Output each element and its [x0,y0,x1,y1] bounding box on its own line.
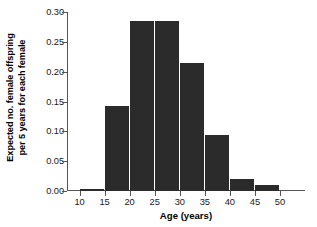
y-axis-tick-label: 0.00 [28,186,64,196]
y-axis-tick-label: 0.05 [28,156,64,166]
bar [105,106,129,191]
x-axis-tick-mark [105,191,106,196]
y-axis-tick-mark [62,191,67,192]
x-axis-tick-mark [80,191,81,196]
x-axis-tick-labels: 101520253035404550 [0,197,317,211]
bar [80,189,104,191]
y-axis-tick-label: 0.25 [28,37,64,47]
bar [155,21,179,191]
x-axis-tick-label: 50 [265,197,295,207]
x-axis-tick-mark [130,191,131,196]
bar [255,185,279,191]
x-axis-tick-mark [180,191,181,196]
y-axis-title-line-1: Expected no. female offspring [5,33,15,161]
bar [130,21,154,191]
y-axis-tick-label: 0.30 [28,7,64,17]
y-axis-tick-labels: 0.000.050.100.150.200.250.30 [28,0,64,200]
x-axis-tick-mark [255,191,256,196]
bar [205,135,229,191]
y-axis-tick-label: 0.10 [28,126,64,136]
y-axis-tick-label: 0.15 [28,97,64,107]
x-axis-tick-mark [205,191,206,196]
x-axis-tick-mark [155,191,156,196]
x-axis-title: Age (years) [67,210,305,221]
bar [180,63,204,191]
y-axis-tick-label: 0.20 [28,67,64,77]
y-axis-title-line-2: per 5 years for each female [16,33,28,161]
x-axis-tick-mark [280,191,281,196]
chart-figure: Expected no. female offspring per 5 year… [0,0,317,227]
bar [230,179,254,191]
plot-area [67,12,305,191]
x-axis-tick-mark [230,191,231,196]
